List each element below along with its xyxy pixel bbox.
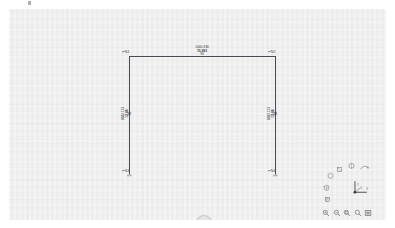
view-top-icon[interactable] <box>324 196 331 203</box>
view-pan-icon[interactable] <box>360 164 369 171</box>
annotation-column-right: 1083.772 72.88 90 <box>268 89 279 139</box>
support-left <box>127 173 132 177</box>
svg-text:X: X <box>366 187 369 191</box>
node-label-n1: ⌐N1 <box>122 50 130 55</box>
view-navigation-cluster: Y X Z <box>321 158 383 218</box>
application-window: ⌐N1 ⌐N2 ⌐N3 ⌐N4 1040.336 70.283 90 <box>0 0 395 228</box>
axis-triad: Y X Z <box>351 178 370 197</box>
zoom-window-icon[interactable] <box>343 209 351 217</box>
svg-text:Z: Z <box>361 186 363 190</box>
zoom-fit-icon[interactable] <box>364 209 372 217</box>
annotation-column-left: 1083.772 72.88 90 <box>122 89 133 139</box>
support-right <box>273 173 278 177</box>
zoom-toolbar <box>322 209 372 217</box>
view-front-icon[interactable] <box>327 172 334 179</box>
view-rotate-icon[interactable] <box>348 162 355 169</box>
node-label-n2: ⌐N2 <box>268 50 276 55</box>
annotation-beam-top: 1040.336 70.283 90 <box>177 46 227 57</box>
zoom-in-icon[interactable] <box>322 209 330 217</box>
svg-text:Y: Y <box>357 183 360 187</box>
top-edge-marker <box>28 1 31 5</box>
view-side-icon[interactable] <box>336 166 343 173</box>
view-iso-icon[interactable] <box>323 184 330 191</box>
zoom-out-icon[interactable] <box>333 209 341 217</box>
model-viewport[interactable]: ⌐N1 ⌐N2 ⌐N3 ⌐N4 1040.336 70.283 90 <box>9 9 386 220</box>
zoom-extents-icon[interactable] <box>354 209 362 217</box>
